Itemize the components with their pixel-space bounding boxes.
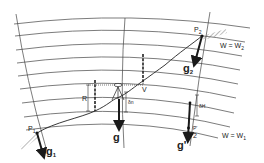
gravity-vector-g-prime: [188, 103, 190, 138]
plumb-line-middle: [122, 18, 125, 148]
instrument-head-icon: [114, 83, 122, 86]
gravity-vector-g1: [37, 133, 43, 154]
equipotential-line-3: [16, 44, 242, 56]
point-g-prime-top: [189, 102, 192, 105]
label-w2: W = W2: [220, 42, 244, 51]
label-p2: P2: [194, 26, 202, 35]
equipotential-line-5: [18, 70, 238, 84]
label-r: R: [82, 95, 87, 102]
label-p1: P1: [28, 125, 36, 134]
label-v: V: [142, 86, 147, 93]
label-p2-prime-sub: 2: [193, 132, 197, 139]
label-g2: g2: [183, 62, 194, 75]
ground-hatch-p1: [20, 133, 39, 150]
label-g-prime: g': [177, 139, 187, 151]
point-p2-prime: [187, 127, 190, 130]
equipotential-line-4: [17, 57, 240, 70]
label-g1: g1: [46, 145, 57, 158]
label-delta-n: δn: [128, 99, 134, 105]
leveling-diagram: P1 P2 P' 2 g1 g2 g g' R V δn δH W = W2 W…: [0, 0, 264, 163]
label-g: g: [113, 131, 120, 143]
label-delta-h: δH: [199, 103, 206, 109]
label-w1: W = W1: [222, 132, 246, 141]
equipotential-line-1: [14, 18, 250, 28]
equipotential-line-6: [20, 83, 236, 98]
label-p2-prime: P': [193, 125, 197, 131]
